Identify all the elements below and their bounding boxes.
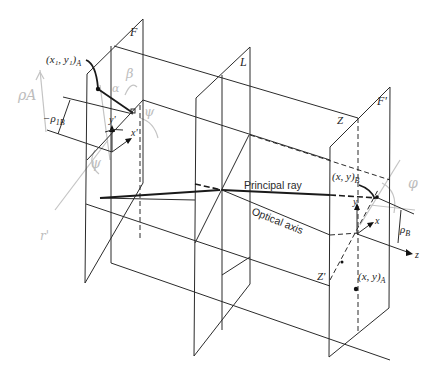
plane-f-inner-horizontal xyxy=(100,198,195,200)
psi-left-pencil-label: ψ xyxy=(90,155,102,171)
x-prime-label: x' xyxy=(130,127,138,138)
plane-f-prime-detail: (x, y)B (x, y)A y x z ρB xyxy=(332,170,419,291)
z-axis-line xyxy=(357,234,410,253)
pencil-phi-arc xyxy=(382,183,395,213)
rays: Principal ray Optical axis xyxy=(100,179,413,256)
rho-b-sub: B xyxy=(405,229,410,238)
xyb-point xyxy=(375,195,379,199)
rho-1b-dimension-arrow xyxy=(58,100,70,134)
rho-a-pencil-label: ρA xyxy=(17,87,36,103)
principal-ray-dashed-in xyxy=(195,184,222,190)
pencil-r-prime-line xyxy=(55,140,108,210)
rho-1b-lower-extension xyxy=(47,130,112,152)
psi-upper-pencil-label: ψ xyxy=(144,104,155,119)
plane-l-label: L xyxy=(239,55,247,69)
xyb-sub: B xyxy=(355,176,360,185)
z-axis-label: z xyxy=(414,249,419,260)
plane-f-detail: (x₁, y₁)A −ρ1B y' x' xyxy=(43,53,195,200)
plane-f-prime-label: F' xyxy=(376,94,387,108)
beta-pencil-label: β xyxy=(125,66,134,81)
rho-a-arrow-head xyxy=(36,72,40,80)
pencil-beta-arc xyxy=(125,85,137,95)
rho-b-label: ρB xyxy=(399,223,410,238)
x1y1a-point xyxy=(96,87,100,91)
xya-point xyxy=(354,287,358,291)
x-axis-label: x xyxy=(374,215,380,226)
z-axis-arrowhead xyxy=(406,249,413,256)
upper-dashed-edge xyxy=(250,135,390,180)
r-prime-pencil-label: r' xyxy=(40,229,49,243)
plane-f-prime-outline xyxy=(329,87,390,357)
plane-f-label: F xyxy=(129,25,138,39)
z-point-label: Z xyxy=(337,114,344,126)
rho-1b-main: −ρ xyxy=(43,112,56,124)
principal-ray-label: Principal ray xyxy=(244,179,303,191)
x-axis-arrowhead xyxy=(367,222,374,228)
rho-1b-sub: 1B xyxy=(56,118,65,127)
plane-f-prime: F' xyxy=(329,87,390,357)
x1y1a-main: (x₁, y₁) xyxy=(46,53,77,66)
phi-right-pencil-label: φ xyxy=(408,175,418,191)
xyb-main: (x, y) xyxy=(332,170,355,183)
y-axis-label: y xyxy=(352,196,358,207)
x1y1a-label: (x₁, y₁)A xyxy=(46,53,81,68)
z-prime-point-label: Z' xyxy=(317,270,326,282)
xya-label: (x, y)A xyxy=(358,270,386,285)
pencil-phi-line xyxy=(360,160,400,225)
optical-axis-label: Optical axis xyxy=(250,205,305,236)
xya-main: (x, y) xyxy=(358,270,381,283)
principal-ray-incoming xyxy=(100,190,220,198)
y-prime-arrowhead xyxy=(109,125,115,132)
plane-l-lower-step xyxy=(222,257,250,275)
x1y1a-pointer xyxy=(86,60,98,88)
xya-sub: A xyxy=(380,276,386,285)
pencil-phi-ref-line xyxy=(370,205,415,210)
alpha-pencil-label: α xyxy=(112,82,120,95)
y-prime-label: y' xyxy=(108,114,116,125)
upper-mid-edge-line xyxy=(143,100,330,160)
rho-1b-label: −ρ1B xyxy=(43,112,65,127)
z-prime-marker xyxy=(341,261,344,264)
x-prime-arrowhead xyxy=(125,138,132,144)
xyb-label: (x, y)B xyxy=(332,170,360,185)
x1y1a-sub: A xyxy=(75,59,81,68)
optical-system-diagram: ρA r' β α ψ ψ φ F L F' xyxy=(0,0,437,378)
